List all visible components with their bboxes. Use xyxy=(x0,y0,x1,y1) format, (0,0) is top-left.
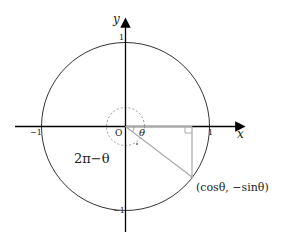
y-axis-label: y xyxy=(113,13,120,25)
tick-x-pos: 1 xyxy=(208,129,213,137)
unit-circle-diagram: y x O 1 −1 1 −1 θ 2π−θ (cosθ, −sinθ) xyxy=(0,0,288,245)
x-axis-label: x xyxy=(237,128,244,140)
origin-label: O xyxy=(115,129,122,138)
radius-segment xyxy=(126,127,193,178)
point-label: (cosθ, −sinθ) xyxy=(196,182,269,193)
theta-arc xyxy=(133,127,134,132)
reflex-arrow-dot xyxy=(136,143,138,145)
theta-label: θ xyxy=(139,128,145,138)
tick-y-pos: 1 xyxy=(119,34,124,42)
tick-y-neg: −1 xyxy=(113,207,125,215)
point xyxy=(191,176,194,179)
diagram-graphics xyxy=(0,0,288,245)
tick-x-neg: −1 xyxy=(30,129,42,137)
right-angle-mark xyxy=(185,127,192,134)
reflex-angle-label: 2π−θ xyxy=(74,152,110,165)
